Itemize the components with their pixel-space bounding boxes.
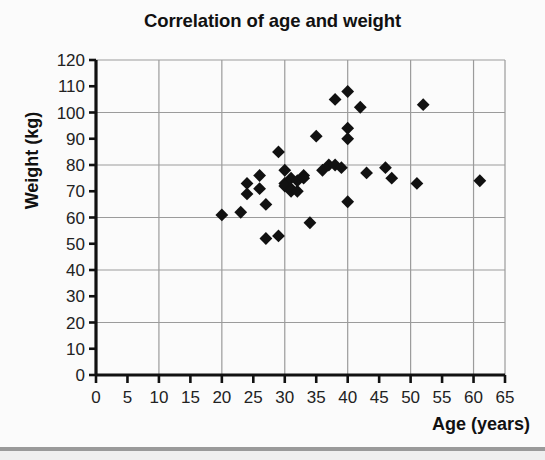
svg-text:60: 60 [66, 209, 85, 228]
svg-text:70: 70 [66, 182, 85, 201]
svg-text:0: 0 [76, 366, 85, 385]
svg-text:90: 90 [66, 130, 85, 149]
data-point [341, 85, 354, 98]
svg-text:25: 25 [244, 388, 263, 407]
data-point [411, 177, 424, 190]
data-point [272, 145, 285, 158]
axis-ticks [89, 60, 505, 383]
svg-text:65: 65 [496, 388, 515, 407]
data-point [310, 130, 323, 143]
data-point [272, 229, 285, 242]
data-point [253, 169, 266, 182]
plot-area: 0102030405060708090100110120051015202530… [0, 0, 545, 460]
svg-text:30: 30 [275, 388, 294, 407]
data-point [253, 182, 266, 195]
data-point [417, 98, 430, 111]
svg-text:0: 0 [91, 388, 100, 407]
svg-text:110: 110 [58, 77, 85, 96]
scatter-chart: Correlation of age and weight Weight (kg… [0, 0, 545, 460]
data-point [341, 195, 354, 208]
svg-text:5: 5 [123, 388, 132, 407]
data-point [259, 232, 272, 245]
svg-text:80: 80 [66, 156, 85, 175]
svg-text:20: 20 [212, 388, 231, 407]
data-point [234, 206, 247, 219]
svg-text:50: 50 [66, 235, 85, 254]
svg-text:40: 40 [338, 388, 357, 407]
svg-text:40: 40 [66, 261, 85, 280]
svg-text:45: 45 [370, 388, 389, 407]
svg-text:60: 60 [464, 388, 483, 407]
svg-text:10: 10 [149, 388, 168, 407]
svg-text:10: 10 [66, 340, 85, 359]
data-point [385, 172, 398, 185]
data-point [329, 93, 342, 106]
svg-text:55: 55 [433, 388, 452, 407]
svg-text:35: 35 [307, 388, 326, 407]
data-point [360, 166, 373, 179]
gridlines [96, 60, 505, 375]
data-point [241, 187, 254, 200]
axis-tick-labels: 0102030405060708090100110120051015202530… [57, 51, 515, 407]
data-point [354, 101, 367, 114]
bottom-margin [0, 451, 545, 460]
svg-text:15: 15 [181, 388, 200, 407]
svg-text:30: 30 [66, 287, 85, 306]
data-point [473, 174, 486, 187]
svg-text:20: 20 [66, 314, 85, 333]
data-point [259, 198, 272, 211]
data-point [379, 161, 392, 174]
svg-text:120: 120 [57, 51, 85, 70]
data-point [341, 132, 354, 145]
data-point [215, 208, 228, 221]
svg-text:100: 100 [57, 104, 85, 123]
svg-text:50: 50 [401, 388, 420, 407]
data-point [304, 216, 317, 229]
